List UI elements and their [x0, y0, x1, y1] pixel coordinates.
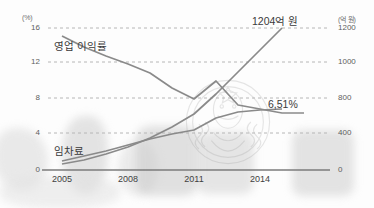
x-tick-2008: 2008	[108, 174, 148, 184]
right-tick-0: 0	[338, 165, 368, 174]
annotation-peak-value: 1204억 원	[252, 13, 298, 28]
right-tick-400: 400	[338, 128, 368, 137]
left-tick-0: 0	[22, 165, 40, 174]
right-tick-800: 800	[338, 93, 368, 102]
x-tick-2014: 2014	[240, 174, 280, 184]
left-tick-4: 4	[22, 128, 40, 137]
right-tick-1200: 1200	[338, 23, 368, 32]
series-label-margin: 영업 이익률	[54, 38, 107, 53]
left-tick-12: 12	[22, 57, 40, 66]
left-tick-8: 8	[22, 93, 40, 102]
right-tick-1000: 1000	[338, 57, 368, 66]
series-label-rent: 임차료	[54, 143, 84, 158]
series-line-rent	[62, 109, 282, 161]
chart-canvas: (%) 16 12 8 4 0 (억 원) 1200 1000 800 400 …	[0, 0, 374, 208]
x-tick-2011: 2011	[174, 174, 214, 184]
x-tick-2005: 2005	[42, 174, 82, 184]
left-axis-unit: (%)	[22, 14, 32, 21]
annotation-margin-value: 6,51%	[268, 98, 298, 110]
left-tick-16: 16	[22, 23, 40, 32]
